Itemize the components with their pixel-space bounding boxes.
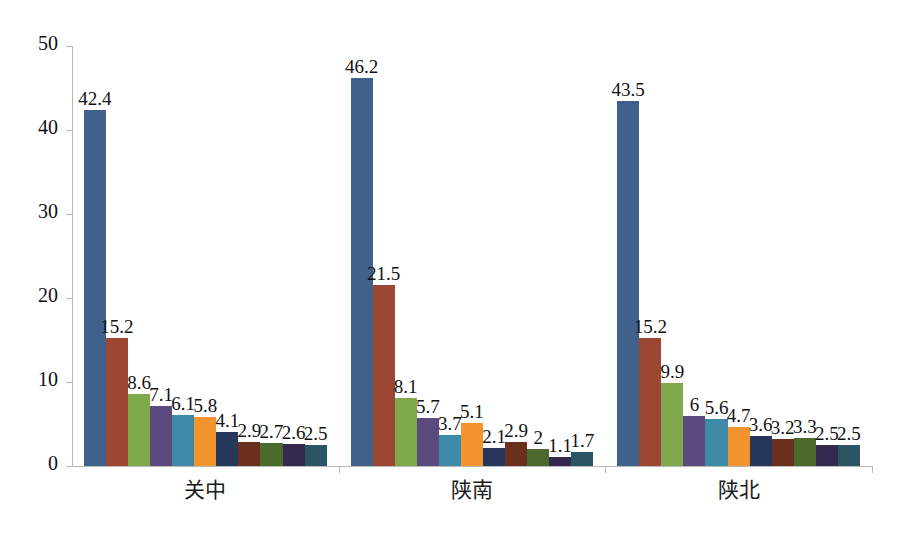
- bar-rect[interactable]: [838, 445, 860, 466]
- bar-rect[interactable]: [128, 394, 150, 466]
- bar-rect[interactable]: [238, 442, 260, 466]
- bar[interactable]: 9.9: [661, 46, 683, 466]
- bar-value-label: 2.5: [304, 424, 328, 443]
- bar-rect[interactable]: [150, 406, 172, 466]
- bar[interactable]: 8.6: [128, 46, 150, 466]
- bar-value-label: 5.8: [193, 396, 217, 415]
- bar[interactable]: 46.2: [351, 46, 373, 466]
- bar[interactable]: 15.2: [106, 46, 128, 466]
- bar-value-label: 2.9: [238, 421, 262, 440]
- bar-value-label: 3.7: [438, 414, 462, 433]
- bar-rect[interactable]: [106, 338, 128, 466]
- bar[interactable]: 5.1: [461, 46, 483, 466]
- bar-value-label: 8.6: [127, 373, 151, 392]
- y-axis-tick-label: 0: [48, 453, 58, 473]
- bar-value-label: 2.5: [815, 424, 839, 443]
- bar-rect[interactable]: [549, 457, 571, 466]
- y-axis-tick-mark: [66, 466, 73, 467]
- bar-rect[interactable]: [305, 445, 327, 466]
- bar-rect[interactable]: [395, 398, 417, 466]
- bar[interactable]: 2.7: [260, 46, 282, 466]
- bar-group-bars: 43.515.29.965.64.73.63.23.32.52.5: [617, 46, 860, 466]
- bar-value-label: 2.9: [504, 421, 528, 440]
- bar-value-label: 5.1: [460, 402, 484, 421]
- bar[interactable]: 8.1: [395, 46, 417, 466]
- bar[interactable]: 3.6: [750, 46, 772, 466]
- bar[interactable]: 2: [527, 46, 549, 466]
- bar-rect[interactable]: [639, 338, 661, 466]
- bar[interactable]: 4.7: [728, 46, 750, 466]
- bar[interactable]: 2.5: [305, 46, 327, 466]
- bar-group: 42.415.28.67.16.15.84.12.92.72.62.5: [84, 46, 327, 466]
- y-axis-tick-label: 30: [38, 201, 58, 221]
- bar-value-label: 3.3: [793, 417, 817, 436]
- bar[interactable]: 2.9: [505, 46, 527, 466]
- bar-group: 46.221.58.15.73.75.12.12.921.11.7: [351, 46, 594, 466]
- bar-rect[interactable]: [750, 436, 772, 466]
- bar-rect[interactable]: [683, 416, 705, 466]
- bar[interactable]: 2.5: [816, 46, 838, 466]
- bar[interactable]: 3.3: [794, 46, 816, 466]
- bar[interactable]: 6.1: [172, 46, 194, 466]
- bar-rect[interactable]: [816, 445, 838, 466]
- bar-rect[interactable]: [194, 417, 216, 466]
- bar[interactable]: 2.6: [283, 46, 305, 466]
- bar-value-label: 5.7: [416, 397, 440, 416]
- bar[interactable]: 3.2: [772, 46, 794, 466]
- bar[interactable]: 5.6: [705, 46, 727, 466]
- y-axis-tick-label: 10: [38, 369, 58, 389]
- bar-rect[interactable]: [439, 435, 461, 466]
- x-axis-category-label: 陕北: [605, 478, 872, 502]
- bar-rect[interactable]: [84, 110, 106, 466]
- bar-rect[interactable]: [373, 285, 395, 466]
- bar-value-label: 2.5: [837, 424, 861, 443]
- bar-value-label: 2.7: [260, 422, 284, 441]
- bar-rect[interactable]: [728, 427, 750, 466]
- bar-rect[interactable]: [260, 443, 282, 466]
- bar-rect[interactable]: [794, 438, 816, 466]
- bar[interactable]: 42.4: [84, 46, 106, 466]
- bar-value-label: 1.1: [548, 436, 572, 455]
- bar-value-label: 4.1: [215, 411, 239, 430]
- bar[interactable]: 6: [683, 46, 705, 466]
- bar-rect[interactable]: [283, 444, 305, 466]
- bar-rect[interactable]: [505, 442, 527, 466]
- x-axis-group-separator: [605, 466, 606, 473]
- x-axis-category-label: 陕南: [339, 478, 606, 502]
- bar-rect[interactable]: [527, 449, 549, 466]
- bar[interactable]: 2.9: [238, 46, 260, 466]
- bar-value-label: 3.6: [749, 415, 773, 434]
- bar[interactable]: 4.1: [216, 46, 238, 466]
- bar[interactable]: 7.1: [150, 46, 172, 466]
- bar-value-label: 9.9: [660, 362, 684, 381]
- bar-group-bars: 46.221.58.15.73.75.12.12.921.11.7: [351, 46, 594, 466]
- bar-rect[interactable]: [483, 448, 505, 466]
- bar-rect[interactable]: [617, 101, 639, 466]
- bar[interactable]: 2.1: [483, 46, 505, 466]
- bar[interactable]: 5.8: [194, 46, 216, 466]
- bar[interactable]: 3.7: [439, 46, 461, 466]
- bar-rect[interactable]: [772, 439, 794, 466]
- bar-rect[interactable]: [216, 432, 238, 466]
- bar[interactable]: 1.7: [571, 46, 593, 466]
- y-axis-tick-label: 50: [38, 33, 58, 53]
- bar[interactable]: 5.7: [417, 46, 439, 466]
- bar-group-bars: 42.415.28.67.16.15.84.12.92.72.62.5: [84, 46, 327, 466]
- bar[interactable]: 21.5: [373, 46, 395, 466]
- bar-value-label: 5.6: [705, 398, 729, 417]
- bar-value-label: 1.7: [570, 431, 594, 450]
- bar[interactable]: 2.5: [838, 46, 860, 466]
- bar[interactable]: 1.1: [549, 46, 571, 466]
- y-axis-tick-label: 40: [38, 117, 58, 137]
- bar-rect[interactable]: [661, 383, 683, 466]
- bar-rect[interactable]: [461, 423, 483, 466]
- bar-value-label: 3.2: [771, 418, 795, 437]
- bar[interactable]: 15.2: [639, 46, 661, 466]
- x-axis-end-tick: [872, 466, 873, 473]
- bar-rect[interactable]: [172, 415, 194, 466]
- bar-rect[interactable]: [417, 418, 439, 466]
- plot-area: 42.415.28.67.16.15.84.12.92.72.62.546.22…: [72, 46, 872, 466]
- bar[interactable]: 43.5: [617, 46, 639, 466]
- bar-rect[interactable]: [705, 419, 727, 466]
- bar-rect[interactable]: [571, 452, 593, 466]
